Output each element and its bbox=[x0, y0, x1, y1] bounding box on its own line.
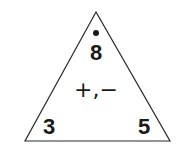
operations-label: +,− bbox=[74, 77, 118, 102]
left-number: 3 bbox=[43, 114, 55, 139]
top-dot-marker bbox=[93, 30, 99, 36]
right-number: 5 bbox=[138, 114, 150, 139]
top-number: 8 bbox=[90, 40, 102, 65]
fact-triangle: 8 +,− 3 5 bbox=[0, 0, 181, 156]
